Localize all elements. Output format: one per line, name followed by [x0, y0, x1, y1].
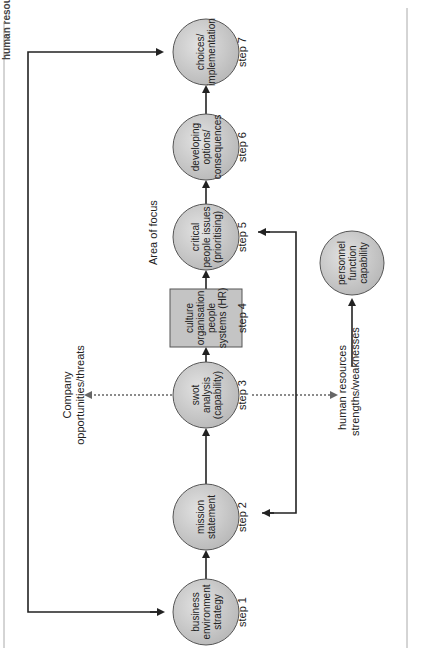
step-label-step4: step 4 — [236, 303, 248, 333]
node-step3-text-line: analysis — [201, 377, 212, 413]
node-step4: cultureorganisationpeoplesystems (HR)ste… — [170, 288, 248, 349]
hr-strategy-diagram: human resources strategy businessenviron… — [0, 0, 425, 658]
node-step4-text-line: people — [206, 303, 217, 333]
node-step5-text-line: people issues — [201, 206, 212, 267]
node-step2: missionstatementstep 2 — [173, 484, 248, 550]
node-step6-text-line: developing — [190, 123, 201, 171]
opportunities-threats-label: opportunities/threats — [74, 345, 86, 445]
node-step6: developingoptions/consequencesstep 6 — [173, 114, 248, 180]
node-step5-text-line: critical — [190, 223, 201, 251]
step-label-step2: step 2 — [236, 502, 248, 532]
node-step5: criticalpeople issues(prioritising)step … — [173, 204, 248, 270]
step-label-step1: step 1 — [236, 597, 248, 627]
node-step4-text-line: systems (HR) — [217, 288, 228, 349]
node-step1-text-line: business — [190, 592, 201, 631]
step-label-step6: step 6 — [236, 132, 248, 162]
step-label-step5: step 5 — [236, 222, 248, 252]
node-step3-text-line: swot — [190, 384, 201, 405]
node-personnel: personnelfunctioncapability — [320, 231, 384, 295]
node-step1-text-line: environment — [201, 584, 212, 639]
node-step3-text-line: (capability) — [212, 371, 223, 419]
feedback-bracket-line — [28, 52, 162, 612]
node-personnel-text-line: capability — [358, 242, 369, 284]
diagram-title: human resources strategy — [1, 0, 12, 60]
node-step6-text-line: options/ — [201, 129, 212, 164]
node-personnel-text-line: personnel — [336, 241, 347, 285]
step-label-step7: step 7 — [236, 37, 248, 67]
strengths-weaknesses-label: strengths/weaknesses — [349, 327, 361, 436]
node-step2-text-line: statement — [206, 495, 217, 539]
node-step3: swotanalysis(capability)step 3 — [173, 362, 248, 428]
node-step7-text-line: implementation — [206, 18, 217, 86]
node-step7-text-line: choices/ — [195, 33, 206, 70]
step-label-step3: step 3 — [236, 380, 248, 410]
node-step5-text-line: (prioritising) — [212, 211, 223, 263]
node-step6-text-line: consequences — [212, 115, 223, 180]
node-step2-text-line: mission — [195, 500, 206, 534]
node-step4-text-line: culture — [184, 303, 195, 333]
hr-bracket-line — [258, 232, 296, 513]
node-step7: choices/implementationstep 7 — [173, 18, 248, 86]
company-label: Company — [61, 371, 73, 419]
human-resources-label: human resources — [336, 345, 348, 430]
node-step1-text-line: strategy — [212, 594, 223, 630]
node-personnel-text-line: function — [347, 245, 358, 280]
node-step1: businessenvironmentstrategystep 1 — [173, 579, 248, 645]
node-step4-text-line: organisation — [195, 291, 206, 345]
area-of-focus-label: Area of focus — [147, 200, 159, 265]
